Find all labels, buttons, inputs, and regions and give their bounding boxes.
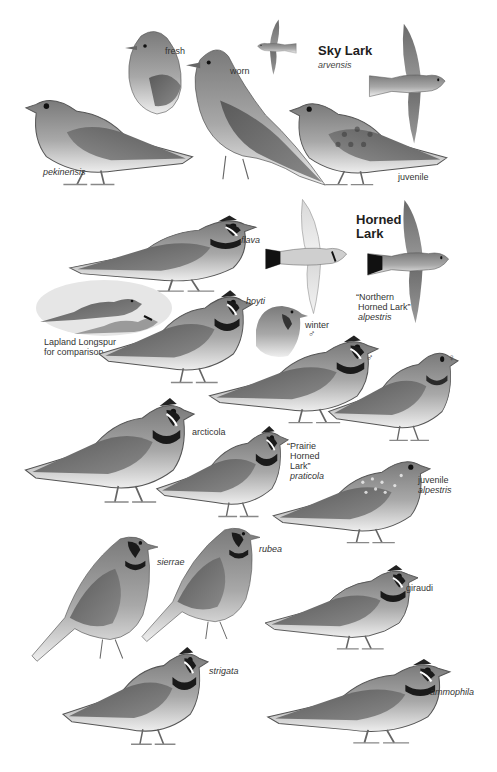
label-worn: worn bbox=[230, 66, 250, 77]
horned-lark-female-illustration bbox=[326, 332, 458, 444]
horned-lark-ammophila-illustration bbox=[264, 646, 450, 746]
label-flava: flava bbox=[241, 235, 260, 246]
sky-lark-title: Sky Lark bbox=[318, 44, 372, 58]
field-guide-plate: pekinensis fresh worn Sky Lark arvensis bbox=[0, 0, 497, 772]
label-lapland-line2: for comparison bbox=[44, 347, 104, 358]
label-ammophila: ammophila bbox=[430, 687, 474, 698]
horned-lark-strigata-illustration bbox=[60, 632, 208, 748]
sky-lark-small-flight-illustration bbox=[254, 16, 298, 76]
sky-lark-subspecies: arvensis bbox=[318, 60, 352, 71]
label-strigata: strigata bbox=[209, 666, 239, 677]
horned-lark-rubea-illustration bbox=[142, 520, 260, 644]
label-giraudi: giraudi bbox=[406, 583, 433, 594]
horned-lark-flight-pale-illustration bbox=[262, 192, 354, 316]
label-female-symbol: ♀ bbox=[448, 352, 456, 363]
label-sky-lark-juvenile: juvenile bbox=[398, 172, 429, 183]
label-pekinensis: pekinensis bbox=[43, 167, 86, 178]
sky-lark-fresh-illustration bbox=[121, 28, 187, 116]
horned-lark-praticola-illustration bbox=[154, 412, 288, 520]
label-juvenile-subspecies: alpestris bbox=[418, 485, 452, 496]
horned-lark-juvenile-illustration bbox=[270, 442, 430, 546]
label-fresh: fresh bbox=[165, 46, 185, 57]
horned-lark-giraudi-illustration bbox=[262, 552, 418, 652]
